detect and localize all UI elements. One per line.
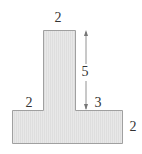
base-height-label: 2	[130, 120, 137, 134]
stem-width-label: 2	[55, 11, 62, 25]
left-overhang-label: 2	[26, 96, 33, 110]
stem-height-label: 5	[82, 65, 89, 79]
right-overhang-label: 3	[95, 96, 102, 110]
t-shape	[13, 31, 123, 144]
t-shape-figure	[0, 0, 142, 154]
